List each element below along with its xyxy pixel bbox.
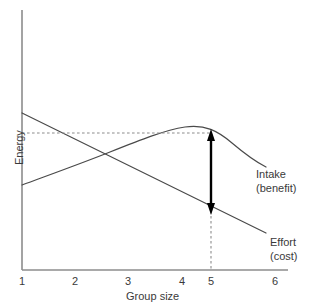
x-tick-label-4: 4 bbox=[170, 275, 194, 288]
x-tick-label-3: 3 bbox=[116, 275, 140, 288]
effort-series-label: Effort (cost) bbox=[270, 236, 298, 264]
x-tick-label-1: 1 bbox=[10, 275, 34, 288]
effort-series-label-line2: (cost) bbox=[270, 250, 298, 264]
x-axis-title: Group size bbox=[126, 290, 179, 303]
x-tick-label-5: 5 bbox=[199, 275, 223, 288]
net-benefit-double-arrow bbox=[207, 129, 215, 215]
effort-series-label-line1: Effort bbox=[270, 236, 298, 250]
intake-series-label: Intake (benefit) bbox=[256, 168, 296, 196]
effort-cost-line bbox=[22, 113, 266, 233]
intake-benefit-curve bbox=[22, 126, 266, 185]
x-tick-label-2: 2 bbox=[63, 275, 87, 288]
intake-series-label-line2: (benefit) bbox=[256, 182, 296, 196]
intake-series-label-line1: Intake bbox=[256, 168, 296, 182]
chart-plot-area bbox=[0, 0, 311, 307]
y-axis-title: Energy bbox=[13, 130, 25, 165]
energy-vs-group-size-chart: 1 2 3 4 5 6 Group size Energy Intake (be… bbox=[0, 0, 311, 307]
x-tick-label-6: 6 bbox=[263, 275, 287, 288]
